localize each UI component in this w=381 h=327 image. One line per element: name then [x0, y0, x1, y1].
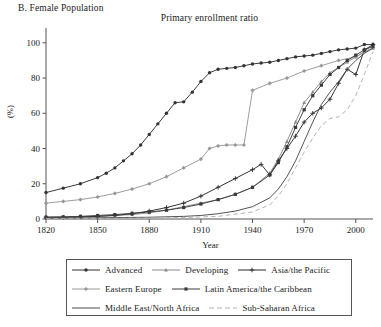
legend-entry[interactable]: Sub-Saharan Africa: [208, 303, 315, 313]
y-tick-label: 80: [31, 73, 41, 83]
series-line: [46, 45, 373, 193]
x-tick-label: 2000: [347, 225, 366, 235]
legend-marker-icon: [71, 303, 101, 313]
chart-title: Primary enrollment ratio: [0, 13, 381, 23]
legend-marker-icon: [171, 284, 201, 294]
y-tick-label: 100: [27, 38, 41, 48]
legend-marker-icon: [151, 265, 181, 275]
y-axis-label: (%): [5, 105, 15, 118]
line-chart-plot: 0204060801001820185018801910194019702000: [0, 0, 381, 250]
legend-label: Middle East/North Africa: [105, 303, 199, 313]
legend-entry[interactable]: Developing: [151, 265, 228, 275]
x-tick-label: 1820: [37, 225, 56, 235]
y-tick-label: 20: [31, 179, 41, 189]
series-line: [46, 45, 373, 218]
y-tick-label: 40: [31, 144, 41, 154]
x-tick-label: 1940: [244, 225, 263, 235]
series-asia-the-pacific: [44, 42, 376, 219]
x-tick-label: 1850: [89, 225, 108, 235]
legend-marker-icon: [71, 265, 101, 275]
series-latin-america-the-caribbean: [44, 45, 374, 219]
legend-label: Advanced: [105, 265, 142, 275]
legend-row: AdvancedDevelopingAsia/the Pacific: [67, 260, 351, 279]
series-sub-saharan-africa: [46, 52, 373, 219]
x-tick-label: 1880: [140, 225, 159, 235]
y-tick-label: 60: [31, 108, 41, 118]
legend-marker-icon: [237, 265, 267, 275]
y-tick-label: 0: [36, 214, 41, 224]
legend-row: Middle East/North AfricaSub-Saharan Afri…: [67, 298, 351, 317]
legend-marker-icon: [208, 303, 238, 313]
panel-label: B. Female Population: [18, 3, 104, 13]
legend-entry[interactable]: Advanced: [71, 265, 142, 275]
chart-legend: AdvancedDevelopingAsia/the PacificEaster…: [66, 259, 352, 316]
series-advanced: [44, 43, 374, 194]
legend-label: Sub-Saharan Africa: [242, 303, 315, 313]
legend-label: Latin America/the Caribbean: [205, 284, 312, 294]
legend-row: Eastern EuropeLatin America/the Caribbea…: [67, 279, 351, 298]
figure-panel-b: B. Female Population Primary enrollment …: [0, 0, 381, 327]
legend-entry[interactable]: Latin America/the Caribbean: [171, 284, 312, 294]
x-tick-label: 1910: [192, 225, 211, 235]
x-axis-label: Year: [0, 240, 381, 250]
legend-entry[interactable]: Asia/the Pacific: [237, 265, 330, 275]
legend-entry[interactable]: Eastern Europe: [71, 284, 162, 294]
legend-marker-icon: [71, 284, 101, 294]
legend-entry[interactable]: Middle East/North Africa: [71, 303, 199, 313]
legend-label: Asia/the Pacific: [271, 265, 330, 275]
legend-label: Eastern Europe: [105, 284, 162, 294]
series-line: [46, 52, 373, 219]
series-eastern-europe: [44, 46, 375, 205]
x-tick-label: 1970: [295, 225, 314, 235]
legend-label: Developing: [185, 265, 228, 275]
